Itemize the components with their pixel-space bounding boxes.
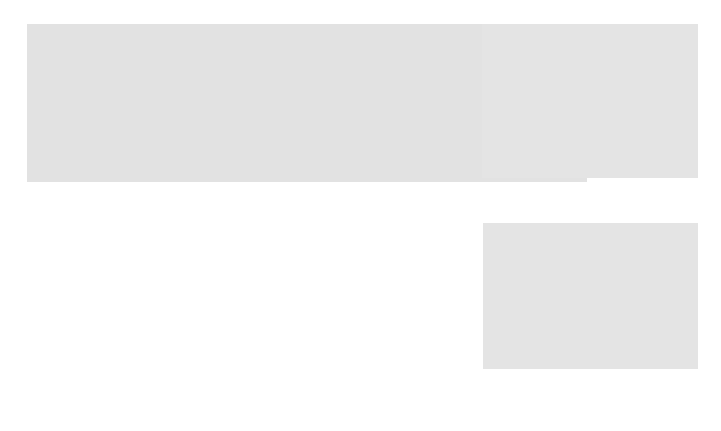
diagram-artwork — [0, 0, 721, 431]
